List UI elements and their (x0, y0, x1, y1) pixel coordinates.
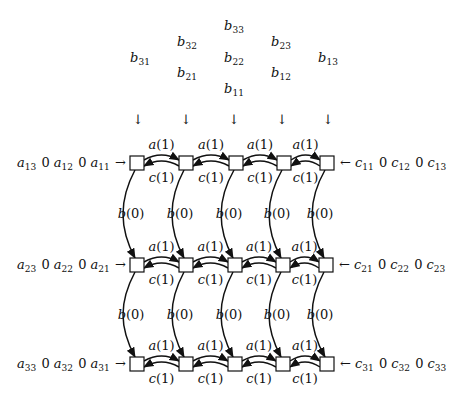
c-output-row-2: ←c21 0c22 0c23 (339, 257, 447, 274)
edge-label-forward: a(1) (247, 137, 273, 152)
systolic-array-figure: b33b32b23b31b22b13b21b12b11 ↓↓↓↓↓ b(0)b(… (0, 0, 459, 406)
edge-backward (243, 161, 277, 166)
edge-label-vertical: b(0) (167, 307, 194, 322)
edge-backward (144, 263, 179, 268)
b-input-21: b21 (177, 65, 197, 82)
edge-label-backward: c(1) (293, 170, 319, 185)
down-arrows: ↓↓↓↓↓ (133, 112, 334, 127)
edge-forward (242, 257, 276, 262)
edge-label-vertical: b(0) (118, 307, 145, 322)
edge-label-backward: c(1) (198, 170, 224, 185)
edge-backward (193, 161, 229, 166)
b-input-22: b22 (224, 50, 244, 67)
edge-label-forward: a(1) (197, 239, 223, 254)
edge-forward (291, 155, 320, 160)
edge-label-backward: c(1) (292, 371, 318, 386)
down-arrow-icon: ↓ (277, 112, 288, 127)
edge-label-backward: c(1) (198, 272, 224, 287)
edge-backward (193, 263, 228, 268)
c-output-row-1: ←c11 0c12 0c13 (340, 155, 448, 172)
b-input-12: b12 (271, 65, 291, 82)
down-arrow-icon: ↓ (323, 112, 334, 127)
edge-label-vertical: b(0) (307, 307, 334, 322)
b-input-32: b32 (177, 34, 197, 51)
edge-label-backward: c(1) (149, 272, 175, 287)
b-input-stream: b33b32b23b31b22b13b21b12b11 (130, 18, 338, 98)
processing-cell-2-4 (276, 258, 290, 272)
edge-forward (144, 356, 179, 361)
down-arrow-icon: ↓ (229, 112, 240, 127)
diagram-canvas: b33b32b23b31b22b13b21b12b11 ↓↓↓↓↓ b(0)b(… (0, 0, 459, 406)
edge-forward (243, 155, 277, 160)
processing-cell-2-5 (319, 258, 333, 272)
processing-cell-1-5 (320, 156, 334, 170)
edge-label-backward: c(1) (198, 371, 224, 386)
b-input-13: b13 (318, 50, 338, 67)
processing-cell-3-4 (276, 357, 290, 371)
a-input-row-2: a23 0a22 0a21 → (17, 257, 126, 274)
edge-forward (144, 155, 179, 160)
edge-forward (193, 257, 228, 262)
edge-label-forward: a(1) (197, 338, 223, 353)
edge-forward (290, 356, 320, 361)
processing-cell-3-1 (130, 357, 144, 371)
edge-backward (242, 263, 276, 268)
edge-backward (144, 362, 179, 367)
edge-label-backward: c(1) (246, 371, 272, 386)
edge-label-backward: c(1) (247, 170, 273, 185)
edge-label-vertical: b(0) (264, 206, 291, 221)
edge-label-vertical: b(0) (264, 307, 291, 322)
edge-label-forward: a(1) (292, 137, 318, 152)
edge-backward (144, 161, 179, 166)
processing-cell-2-1 (130, 258, 144, 272)
edge-backward (290, 362, 320, 367)
edge-forward (193, 356, 228, 361)
edge-forward (193, 155, 229, 160)
edge-label-vertical: b(0) (307, 206, 334, 221)
processing-cell-3-2 (179, 357, 193, 371)
b-input-33: b33 (224, 18, 244, 35)
edge-backward (193, 362, 228, 367)
edge-forward (290, 257, 319, 262)
edge-label-forward: a(1) (292, 338, 318, 353)
b-input-11: b11 (224, 81, 244, 98)
processing-cell-1-1 (130, 156, 144, 170)
down-arrow-icon: ↓ (181, 112, 192, 127)
edge-forward (144, 257, 179, 262)
edge-backward (291, 161, 320, 166)
c-output-row-3: ←c31 0c32 0c33 (340, 356, 448, 373)
edge-backward (290, 263, 319, 268)
edge-forward (242, 356, 276, 361)
processing-cell-3-3 (228, 357, 242, 371)
edge-label-forward: a(1) (291, 239, 317, 254)
down-arrow-icon: ↓ (133, 112, 144, 127)
edge-backward (242, 362, 276, 367)
edge-label-vertical: b(0) (118, 206, 145, 221)
edge-label-backward: c(1) (149, 170, 175, 185)
edge-label-vertical: b(0) (216, 206, 243, 221)
processing-cell-1-4 (277, 156, 291, 170)
processing-cell-2-3 (228, 258, 242, 272)
processing-cell-1-2 (179, 156, 193, 170)
edge-label-forward: a(1) (246, 239, 272, 254)
a-input-row-1: a13 0a12 0a11 → (17, 155, 126, 172)
edge-label-forward: a(1) (148, 137, 174, 152)
b-input-31: b31 (130, 50, 150, 67)
processing-cell-1-3 (229, 156, 243, 170)
edge-label-backward: c(1) (149, 371, 175, 386)
edge-label-forward: a(1) (198, 137, 224, 152)
edge-label-vertical: b(0) (167, 206, 194, 221)
edge-label-backward: c(1) (246, 272, 272, 287)
edge-label-forward: a(1) (148, 239, 174, 254)
processing-cell-3-5 (320, 357, 334, 371)
edge-label-forward: a(1) (246, 338, 272, 353)
edge-label-forward: a(1) (148, 338, 174, 353)
a-input-row-3: a33 0a32 0a31 → (17, 356, 126, 373)
processing-cell-2-2 (179, 258, 193, 272)
b-input-23: b23 (271, 34, 291, 51)
edge-label-vertical: b(0) (216, 307, 243, 322)
edge-label-backward: c(1) (292, 272, 318, 287)
